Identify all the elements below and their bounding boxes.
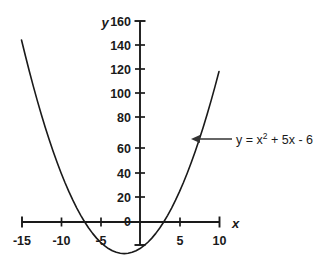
y-tick-label-60: 60 bbox=[117, 142, 131, 156]
chart-background bbox=[0, 0, 334, 259]
x-tick-label-5: 5 bbox=[177, 234, 184, 248]
y-tick-label-20: 20 bbox=[117, 191, 131, 205]
y-tick-label-80: 80 bbox=[117, 111, 131, 125]
x-tick-label-10: 10 bbox=[213, 234, 227, 248]
equation-tail-text: + 5x - 6 bbox=[271, 133, 313, 147]
parabola-chart: -15 -10 -5 5 10 x 160 140 120 100 80 bbox=[0, 0, 334, 259]
y-tick-label-140: 140 bbox=[110, 39, 131, 53]
equation-label: y = x2 + 5x - 6 bbox=[236, 131, 313, 147]
y-tick-label-120: 120 bbox=[110, 63, 131, 77]
chart-container: -15 -10 -5 5 10 x 160 140 120 100 80 bbox=[0, 0, 334, 259]
x-tick-label--10: -10 bbox=[52, 234, 70, 248]
y-tick-label-0: 0 bbox=[124, 215, 131, 229]
x-axis-label: x bbox=[231, 216, 240, 231]
x-tick-label--15: -15 bbox=[13, 234, 31, 248]
y-axis-label: y bbox=[100, 15, 109, 30]
y-tick-label-40: 40 bbox=[117, 167, 131, 181]
y-tick-label-160: 160 bbox=[110, 15, 131, 29]
y-tick-label-100: 100 bbox=[110, 87, 131, 101]
equation-lead: y = x bbox=[236, 133, 263, 147]
